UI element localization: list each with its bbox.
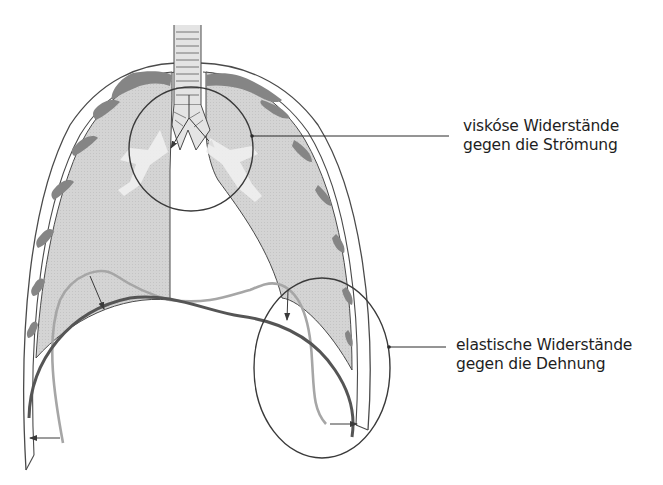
thorax-lung-diagram	[0, 0, 663, 485]
callout-label-line: gegen die Strömung	[463, 136, 619, 155]
callout-label-elastic-resistance: elastische Widerstände gegen die Dehnung	[456, 336, 632, 374]
callout-label-line: viskóse Widerstände	[463, 117, 619, 136]
callout-label-line: elastische Widerstände	[456, 336, 632, 355]
callout-label-line: gegen die Dehnung	[456, 355, 632, 374]
callout-label-viscous-resistance: viskóse Widerstände gegen die Strömung	[463, 117, 619, 155]
callout-circle-elastic	[254, 278, 446, 458]
